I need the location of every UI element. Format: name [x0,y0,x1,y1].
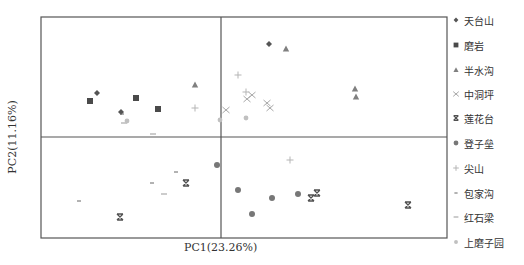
data-point [192,82,198,88]
series-6 [192,72,294,164]
y-axis-label: PC2(11.16%) [6,100,19,173]
data-point [249,92,256,98]
series-2 [192,46,359,100]
data-point [295,191,301,197]
data-point [287,157,294,164]
legend-item: 红石梁 [451,209,494,225]
legend-item: 莲花台 [451,110,494,126]
data-point [405,202,411,208]
data-point [133,95,139,101]
series-3 [223,92,274,113]
legend-item: 半水沟 [451,62,494,78]
data-point [266,41,272,47]
data-point [125,119,130,124]
legend-label: 半水沟 [464,63,494,78]
data-point [87,98,93,104]
data-point [269,195,275,201]
series-7 [77,114,178,201]
legend-item: 包家沟 [451,185,494,201]
square-marker-icon [451,40,461,50]
data-point [249,211,255,217]
legend-label: 红石梁 [464,210,494,225]
plot-frame [41,17,447,238]
x-axis-label-text: PC1(23.26%) [184,241,257,254]
legend-item: 上磨子园 [451,234,504,250]
legend-label: 包家沟 [464,186,494,201]
data-point [117,214,123,220]
data-point [314,190,320,196]
scatter-plot [0,0,524,265]
legend-item: 尖山 [451,160,484,176]
series-9 [125,116,249,124]
series-8 [121,123,167,194]
data-point [283,46,289,52]
legend-label: 上磨子园 [464,235,504,250]
legend-label: 尖山 [464,161,484,176]
dash-marker-icon [451,212,461,222]
data-point [192,105,199,112]
triangle-marker-icon [451,65,461,75]
series-4 [117,180,411,220]
x-marker-icon [451,89,461,99]
series-0 [94,41,272,115]
legend-item: 天台山 [451,12,494,28]
legend-label: 磨岩 [464,38,484,53]
legend-item: 登子垒 [451,135,494,151]
legend-item: 磨岩 [451,37,484,53]
circle-small-marker-icon [451,237,461,247]
data-point [235,187,241,193]
bowtie-marker-icon [451,113,461,123]
series-1 [87,95,161,112]
data-point [94,90,100,96]
legend-label: 莲花台 [464,111,494,126]
plus-marker-icon [451,163,461,173]
data-point [244,116,249,121]
circle-marker-icon [451,138,461,148]
data-point [214,162,220,168]
data-point [235,72,242,79]
series-5 [214,162,301,217]
data-point [308,195,314,201]
legend-label: 天台山 [464,13,494,28]
legend-item: 中洞坪 [451,86,494,102]
diamond-marker-icon [451,15,461,25]
data-point [183,180,189,186]
dash-short-marker-icon [451,188,461,198]
legend-label: 中洞坪 [464,87,494,102]
data-point [155,106,161,112]
data-point [223,107,230,113]
data-point [353,94,359,100]
legend-label: 登子垒 [464,136,494,151]
data-point [352,86,358,92]
data-point [218,118,223,123]
data-point [243,89,250,96]
